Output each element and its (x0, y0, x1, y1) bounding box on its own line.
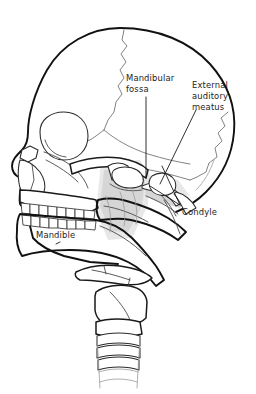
tooth-mandibular (85, 221, 96, 230)
tooth-maxillary (48, 206, 57, 217)
tracheal-ring (97, 345, 140, 358)
tooth-mandibular (58, 219, 67, 229)
tracheal-rings-group (97, 333, 140, 388)
tooth-mandibular (76, 220, 85, 229)
label-external-auditory-meatus: External auditory meatus (192, 80, 252, 114)
tooth-mandibular (67, 220, 76, 229)
tooth-maxillary (21, 203, 30, 214)
skull-anatomy-figure: Mandibular fossa External auditory meatu… (0, 0, 256, 394)
tooth-maxillary (84, 210, 95, 219)
tooth-maxillary (57, 207, 66, 217)
tooth-mandibular (22, 215, 31, 226)
tooth-maxillary (30, 204, 39, 215)
external-auditory-meatus (149, 173, 176, 195)
coronal-suture (82, 30, 127, 142)
tooth-mandibular (49, 218, 58, 228)
tooth-mandibular (31, 216, 40, 227)
label-mandible: Mandible (36, 230, 92, 241)
label-mandibular-fossa: Mandibular fossa (126, 73, 188, 95)
label-condyle: Condyle (182, 207, 238, 218)
tracheal-ring (98, 357, 139, 370)
tracheal-ring-faint (99, 369, 138, 372)
leader-mandible-tick (56, 242, 60, 244)
tooth-maxillary (39, 205, 48, 216)
skull-illustration (0, 0, 256, 394)
tooth-maxillary (66, 208, 75, 218)
tracheal-ring-faint (100, 379, 137, 382)
tooth-maxillary (75, 209, 84, 218)
tracheal-ring (97, 333, 140, 346)
tooth-mandibular (40, 217, 49, 228)
